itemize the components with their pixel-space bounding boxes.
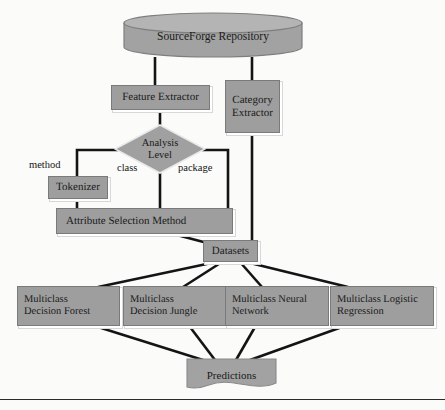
node-label-multiclass-decision-jungle-line1: Multiclass bbox=[130, 294, 174, 305]
node-predictions[interactable]: Predictions bbox=[186, 358, 277, 391]
node-label-multiclass-decision-forest-line1: Multiclass bbox=[24, 294, 68, 305]
node-datasets[interactable]: Datasets bbox=[203, 240, 258, 262]
node-label-feature-extractor: Feature Extractor bbox=[112, 91, 209, 104]
node-label-multiclass-logistic-regression: Multiclass Logistic Regression bbox=[331, 294, 433, 319]
node-label-analysis-level: Analysis Level bbox=[114, 137, 206, 161]
edge-label-package: package bbox=[178, 162, 212, 173]
node-sourceforge-repository[interactable]: SourceForge Repository bbox=[123, 12, 303, 58]
node-label-category-extractor-line1: Category bbox=[232, 94, 272, 106]
node-tokenizer[interactable]: Tokenizer bbox=[48, 176, 108, 199]
node-multiclass-logistic-regression[interactable]: Multiclass Logistic Regression bbox=[330, 286, 434, 326]
node-label-tokenizer: Tokenizer bbox=[49, 181, 107, 194]
node-label-predictions: Predictions bbox=[186, 369, 277, 381]
node-label-multiclass-decision-jungle-line2: Decision Jungle bbox=[130, 306, 197, 317]
edge-datasets-to-logistic-regression bbox=[246, 262, 348, 287]
node-label-multiclass-neural-network-line2: Network bbox=[232, 306, 269, 317]
flowchart-edges bbox=[0, 0, 445, 410]
edge-datasets-to-neural-network bbox=[240, 262, 262, 287]
node-label-multiclass-logistic-regression-line2: Regression bbox=[337, 306, 384, 317]
node-label-datasets: Datasets bbox=[204, 245, 257, 258]
node-label-category-extractor: Category Extractor bbox=[226, 94, 279, 120]
node-attribute-selection-method[interactable]: Attribute Selection Method bbox=[56, 208, 233, 234]
node-multiclass-decision-forest[interactable]: Multiclass Decision Forest bbox=[17, 286, 120, 326]
edge-analysis-level-method-to-tokenizer bbox=[77, 150, 118, 176]
node-multiclass-neural-network[interactable]: Multiclass Neural Network bbox=[225, 286, 329, 326]
node-label-multiclass-decision-forest: Multiclass Decision Forest bbox=[18, 294, 119, 319]
edge-datasets-to-decision-forest bbox=[98, 262, 216, 287]
edge-decision-jungle-to-predictions bbox=[190, 327, 215, 360]
node-label-multiclass-neural-network-line1: Multiclass Neural bbox=[232, 294, 307, 305]
node-category-extractor[interactable]: Category Extractor bbox=[225, 80, 280, 133]
node-label-analysis-level-line1: Analysis bbox=[142, 137, 179, 148]
edge-label-class: class bbox=[117, 162, 137, 173]
node-label-sourceforge-repository: SourceForge Repository bbox=[123, 30, 303, 42]
edge-datasets-to-decision-jungle bbox=[183, 262, 222, 287]
edge-decision-forest-to-predictions bbox=[98, 327, 203, 360]
node-label-multiclass-decision-jungle: Multiclass Decision Jungle bbox=[124, 294, 225, 319]
edge-logistic-regression-to-predictions bbox=[250, 327, 342, 360]
node-label-multiclass-decision-forest-line2: Decision Forest bbox=[24, 306, 90, 317]
node-label-analysis-level-line2: Level bbox=[148, 149, 172, 160]
node-label-attribute-selection-method: Attribute Selection Method bbox=[57, 215, 232, 228]
node-label-category-extractor-line2: Extractor bbox=[232, 107, 273, 119]
node-label-multiclass-logistic-regression-line1: Multiclass Logistic bbox=[337, 294, 418, 305]
bottom-divider bbox=[0, 399, 445, 400]
flowchart-canvas: SourceForge Repository Feature Extractor… bbox=[0, 0, 445, 410]
edge-neural-network-to-predictions bbox=[236, 327, 255, 360]
node-feature-extractor[interactable]: Feature Extractor bbox=[111, 85, 210, 110]
edge-label-method: method bbox=[29, 159, 61, 170]
node-label-multiclass-neural-network: Multiclass Neural Network bbox=[226, 294, 328, 319]
node-multiclass-decision-jungle[interactable]: Multiclass Decision Jungle bbox=[123, 286, 226, 326]
